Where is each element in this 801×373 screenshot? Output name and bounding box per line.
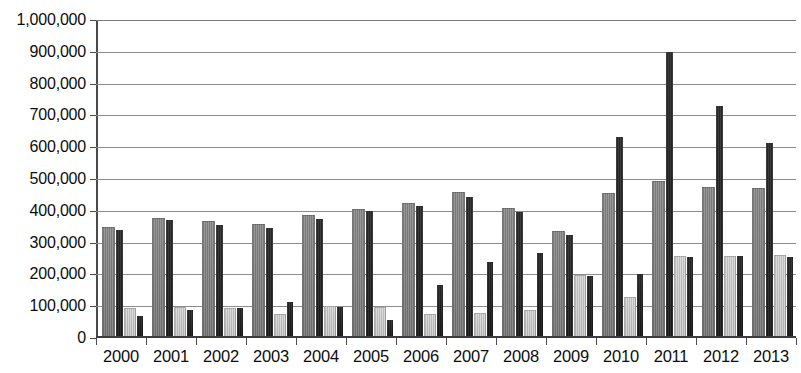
bar-series-3-2004 <box>324 306 336 338</box>
bar-series-4-2007 <box>487 262 493 338</box>
x-tickmark <box>446 338 447 345</box>
x-tick-label-2007: 2007 <box>453 347 489 366</box>
bar-series-4-2008 <box>537 253 543 338</box>
x-tick-label-2011: 2011 <box>654 347 689 366</box>
bar-group <box>202 20 243 338</box>
bar-series-2-2008 <box>516 212 523 338</box>
bar-series-3-2005 <box>374 307 386 338</box>
y-tick-label: 700,000 <box>30 106 86 124</box>
bar-series-1-2012 <box>702 187 716 338</box>
x-tickmark <box>646 338 647 345</box>
x-tickmark <box>546 338 547 345</box>
bar-series-1-2011 <box>652 181 666 338</box>
bar-series-3-2012 <box>724 256 736 338</box>
bar-series-4-2004 <box>337 307 343 338</box>
y-tick-label: 800,000 <box>30 75 86 93</box>
x-tickmark <box>596 338 597 345</box>
bar-series-2-2006 <box>416 206 423 338</box>
bars-layer <box>96 20 796 338</box>
y-tick-label: 100,000 <box>30 297 86 315</box>
x-tick-label-2009: 2009 <box>553 347 589 366</box>
bar-series-4-2002 <box>237 308 243 338</box>
y-tick-label: 600,000 <box>30 138 86 156</box>
x-tickmark <box>346 338 347 345</box>
x-tick-label-2002: 2002 <box>203 347 239 366</box>
bar-series-1-2009 <box>552 231 566 338</box>
x-tick-label-2008: 2008 <box>503 347 539 366</box>
bar-series-4-2006 <box>437 285 443 338</box>
bar-series-1-2000 <box>102 227 116 338</box>
bar-series-2-2003 <box>266 228 273 338</box>
bar-series-4-2003 <box>287 302 293 338</box>
bar-series-2-2002 <box>216 225 223 338</box>
bar-series-3-2000 <box>124 308 136 338</box>
bar-series-2-2013 <box>766 143 773 338</box>
x-tickmark <box>496 338 497 345</box>
bar-group <box>702 20 743 338</box>
bar-group <box>502 20 543 338</box>
x-tick-label-2006: 2006 <box>403 347 439 366</box>
bar-series-2-2012 <box>716 106 723 338</box>
bar-series-2-2000 <box>116 230 123 338</box>
bar-series-3-2011 <box>674 256 686 338</box>
bar-group <box>302 20 343 338</box>
bar-series-3-2013 <box>774 255 786 338</box>
x-tick-label-2013: 2013 <box>753 347 789 366</box>
bar-group <box>752 20 793 338</box>
bar-series-3-2009 <box>574 275 586 338</box>
x-tick-label-2000: 2000 <box>103 347 139 366</box>
bar-group <box>452 20 493 338</box>
bar-series-1-2006 <box>402 203 416 338</box>
bar-series-4-2001 <box>187 310 193 338</box>
bar-series-4-2011 <box>687 257 693 338</box>
x-tickmark <box>96 338 97 345</box>
bar-series-1-2007 <box>452 192 466 338</box>
y-axis: 1,000,000900,000800,000700,000600,000500… <box>0 0 92 373</box>
y-tick-label: 900,000 <box>30 43 86 61</box>
x-tick-label-2012: 2012 <box>703 347 739 366</box>
bar-series-2-2009 <box>566 235 573 338</box>
bar-chart: 1,000,000900,000800,000700,000600,000500… <box>0 0 801 373</box>
bar-series-2-2001 <box>166 220 173 338</box>
bar-series-2-2011 <box>666 52 673 338</box>
bar-group <box>252 20 293 338</box>
bar-series-3-2002 <box>224 308 236 338</box>
bar-series-1-2004 <box>302 215 316 338</box>
x-tickmark <box>696 338 697 345</box>
y-tick-label: 200,000 <box>30 265 86 283</box>
bar-series-2-2004 <box>316 219 323 338</box>
bar-group <box>552 20 593 338</box>
bar-series-1-2013 <box>752 188 766 338</box>
x-tickmark <box>746 338 747 345</box>
x-axis: 2000200120022003200420052006200720082009… <box>96 338 796 373</box>
bar-series-3-2007 <box>474 313 486 338</box>
y-tick-label: 300,000 <box>30 234 86 252</box>
bar-series-4-2009 <box>587 276 593 338</box>
bar-series-1-2008 <box>502 208 516 338</box>
bar-group <box>652 20 693 338</box>
bar-series-2-2007 <box>466 197 473 339</box>
y-tick-label: 500,000 <box>30 170 86 188</box>
bar-series-4-2010 <box>637 274 643 338</box>
bar-series-1-2005 <box>352 209 366 338</box>
bar-series-3-2001 <box>174 307 186 338</box>
bar-series-1-2002 <box>202 221 216 338</box>
bar-series-4-2000 <box>137 316 143 338</box>
bar-group <box>152 20 193 338</box>
bar-series-3-2010 <box>624 297 636 338</box>
bar-group <box>102 20 143 338</box>
bar-series-2-2005 <box>366 211 373 338</box>
x-tickmark <box>296 338 297 345</box>
x-tick-label-2004: 2004 <box>303 347 339 366</box>
bar-series-3-2008 <box>524 310 536 338</box>
x-tickmark <box>146 338 147 345</box>
bar-series-3-2006 <box>424 314 436 338</box>
bar-series-4-2012 <box>737 256 743 338</box>
x-tickmark <box>246 338 247 345</box>
x-tickmark <box>196 338 197 345</box>
bar-series-1-2010 <box>602 193 616 338</box>
x-tick-label-2001: 2001 <box>153 347 189 366</box>
bar-series-1-2003 <box>252 224 266 338</box>
bar-group <box>602 20 643 338</box>
x-tick-label-2003: 2003 <box>253 347 289 366</box>
